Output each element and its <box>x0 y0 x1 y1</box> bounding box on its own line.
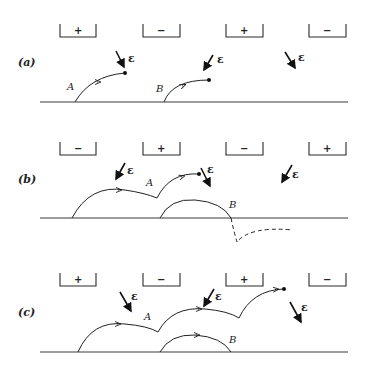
plate-2: + <box>143 142 180 155</box>
point-label-a: A <box>66 81 74 92</box>
plate-sign: − <box>157 274 165 285</box>
plate-4: + <box>309 142 346 155</box>
trajectory-a <box>72 189 157 218</box>
trajectory-b <box>160 335 231 352</box>
plate-sign: − <box>323 25 331 36</box>
field-label: ε <box>298 51 305 64</box>
trajectory-b <box>164 80 209 102</box>
plate-2: − <box>143 24 180 37</box>
plate-sign: + <box>240 25 248 36</box>
field-label: ε <box>215 290 222 303</box>
particle-dot <box>282 287 286 291</box>
plate-sign: + <box>74 274 82 285</box>
panel-label: (c) <box>18 306 35 319</box>
plate-1: + <box>60 24 96 37</box>
point-label-b: B <box>228 334 236 345</box>
field-label: ε <box>217 53 224 66</box>
point-label-a: A <box>145 177 153 188</box>
plate-sign: + <box>74 25 82 36</box>
field-label: ε <box>301 301 308 314</box>
field-label: ε <box>127 164 134 177</box>
plate-sign: − <box>74 143 82 154</box>
panel-b: (b) − + − + A B ε ε ε <box>18 142 348 242</box>
field-label: ε <box>128 52 135 65</box>
panel-label: (b) <box>18 173 36 186</box>
plate-sign: + <box>240 274 248 285</box>
plate-3: + <box>226 273 263 286</box>
plate-sign: − <box>157 25 165 36</box>
plate-4: − <box>309 24 346 37</box>
field-label: ε <box>131 290 138 303</box>
trajectory-b <box>160 200 231 218</box>
plate-1: − <box>60 142 96 155</box>
panel-label: (a) <box>18 56 36 69</box>
plate-3: + <box>226 24 263 37</box>
plate-sign: − <box>323 274 331 285</box>
trajectory-a-hop2 <box>239 289 284 318</box>
trajectory-a <box>78 324 158 352</box>
field-arrow-icon <box>282 165 292 182</box>
field-arrow-icon <box>116 51 124 67</box>
plate-sign: + <box>323 143 331 154</box>
plate-sign: − <box>240 143 248 154</box>
particle-dot <box>197 172 201 176</box>
diagram-canvas: (a) + − + − A B ε ε ε <box>0 0 365 371</box>
field-arrow-icon <box>120 292 131 311</box>
particle-dot <box>123 71 127 75</box>
plate-sign: + <box>157 143 165 154</box>
field-arrow-icon <box>290 302 301 322</box>
plate-4: − <box>309 273 346 286</box>
trajectory-a <box>75 73 125 102</box>
plate-3: − <box>226 142 263 155</box>
plate-1: + <box>60 273 96 286</box>
point-label-a: A <box>143 311 151 322</box>
field-arrow-icon <box>204 289 214 306</box>
panel-c: (c) + − + − A B ε ε <box>18 273 348 352</box>
trajectory-a-hop1 <box>158 309 239 332</box>
trajectory-b-continued <box>231 218 293 242</box>
panel-a: (a) + − + − A B ε ε ε <box>18 24 348 102</box>
particle-dot <box>207 78 211 82</box>
point-label-b: B <box>228 199 236 210</box>
field-label: ε <box>292 168 299 181</box>
field-arrow-icon <box>116 163 125 179</box>
trajectory-a-hop <box>157 174 199 198</box>
plate-2: − <box>143 273 180 286</box>
field-arrow-icon <box>204 55 213 70</box>
point-label-b: B <box>155 83 163 94</box>
field-label: ε <box>207 163 214 176</box>
field-arrow-icon <box>285 52 295 68</box>
